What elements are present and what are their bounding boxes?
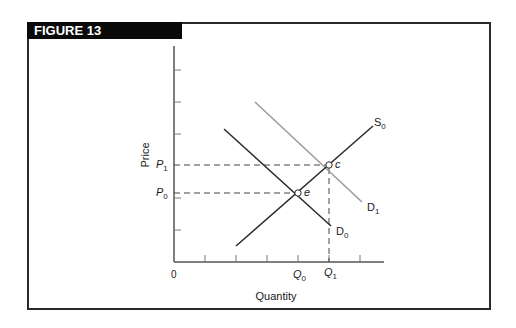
point-e-marker <box>295 190 301 196</box>
supply-demand-chart: c e S0 D1 D0 P1 P0 Q0 Q1 0 Quantity Pric… <box>0 0 516 328</box>
x-axis-label: Quantity <box>256 290 297 302</box>
origin-label: 0 <box>171 269 177 280</box>
s0-label: S0 <box>374 116 386 131</box>
axes <box>174 46 384 262</box>
point-c-label: c <box>335 158 341 170</box>
y-axis-label: Price <box>139 142 151 167</box>
point-c-marker <box>326 162 332 168</box>
y-ticks <box>174 70 181 230</box>
q1-label: Q1 <box>324 266 338 281</box>
d1-label: D1 <box>367 201 380 216</box>
q0-label: Q0 <box>293 268 307 283</box>
p1-label: P1 <box>156 158 168 173</box>
p0-label: P0 <box>156 186 168 201</box>
guide-lines <box>174 165 329 262</box>
x-ticks <box>205 255 360 262</box>
point-e-label: e <box>304 186 310 198</box>
d0-label: D0 <box>336 225 349 240</box>
